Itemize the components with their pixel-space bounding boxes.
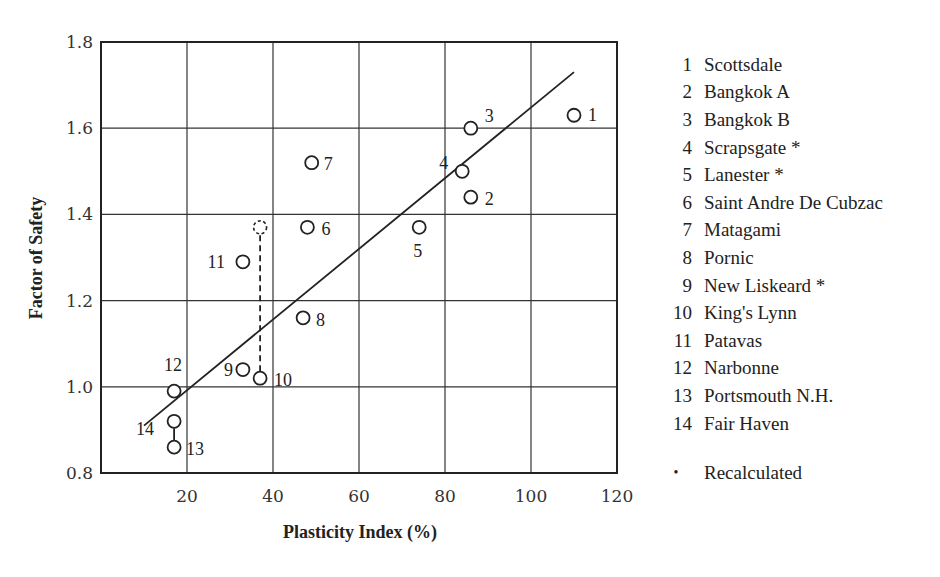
legend-site-name: Patavas xyxy=(704,330,762,352)
point-label: 5 xyxy=(413,241,422,261)
x-axis-label: Plasticity Index (%) xyxy=(283,522,437,543)
point-label: 13 xyxy=(186,439,204,459)
x-axis-ticks: 20406080100120 xyxy=(176,486,633,506)
legend-site-name: Scrapsgate * xyxy=(704,137,801,159)
legend-site-name: King's Lynn xyxy=(704,302,797,324)
legend-number: 6 xyxy=(662,192,704,214)
legend-number: 7 xyxy=(662,219,704,241)
legend-number: 8 xyxy=(662,247,704,269)
x-tick-label: 80 xyxy=(434,486,456,506)
legend-number: 1 xyxy=(662,54,704,76)
legend-number: 13 xyxy=(662,385,704,407)
data-point-13: 13 xyxy=(168,439,205,459)
legend-note: •Recalculated xyxy=(662,459,883,487)
y-tick-label: 1.6 xyxy=(66,118,93,138)
point-marker xyxy=(168,441,181,454)
y-axis-label: Factor of Safety xyxy=(26,197,46,320)
legend-item: 11Patavas xyxy=(662,327,883,355)
legend-number: 3 xyxy=(662,109,704,131)
legend-item: 12Narbonne xyxy=(662,355,883,383)
point-marker xyxy=(464,122,477,135)
point-label: 1 xyxy=(588,105,597,125)
y-tick-label: 0.8 xyxy=(66,463,93,483)
legend-number: 4 xyxy=(662,137,704,159)
legend-site-name: Bangkok A xyxy=(704,81,790,103)
point-marker xyxy=(168,385,181,398)
data-point-2: 2 xyxy=(464,189,494,209)
point-label: 11 xyxy=(208,252,225,272)
legend-item: 9New Liskeard * xyxy=(662,272,883,300)
grid-lines xyxy=(101,42,617,473)
legend-number: 11 xyxy=(662,330,704,352)
data-point-7: 7 xyxy=(305,154,333,174)
data-point-9: 9 xyxy=(224,360,250,380)
legend-item: 14Fair Haven xyxy=(662,410,883,438)
x-tick-label: 60 xyxy=(348,486,370,506)
y-tick-label: 1.0 xyxy=(66,377,93,397)
x-tick-label: 100 xyxy=(515,486,547,506)
data-point-4: 4 xyxy=(439,153,469,178)
legend-site-name: Portsmouth N.H. xyxy=(704,385,833,407)
legend-note-text: Recalculated xyxy=(704,462,802,484)
data-point-1: 1 xyxy=(568,105,598,125)
bullet-icon: • xyxy=(662,465,704,481)
legend-item: 4Scrapsgate * xyxy=(662,134,883,162)
legend-item: 2Bangkok A xyxy=(662,79,883,107)
point-label: 3 xyxy=(485,106,494,126)
recalculated-point-marker xyxy=(254,221,267,234)
legend: 1Scottsdale2Bangkok A3Bangkok B4Scrapsga… xyxy=(662,51,883,487)
x-tick-label: 40 xyxy=(262,486,284,506)
legend-site-name: Pornic xyxy=(704,247,754,269)
point-marker xyxy=(305,156,318,169)
point-label: 2 xyxy=(485,189,494,209)
point-marker xyxy=(301,221,314,234)
legend-site-name: Scottsdale xyxy=(704,54,782,76)
point-marker xyxy=(413,221,426,234)
legend-site-name: Matagami xyxy=(704,219,781,241)
data-point-6: 6 xyxy=(301,219,331,239)
legend-item: 7Matagami xyxy=(662,217,883,245)
legend-item: 6Saint Andre De Cubzac xyxy=(662,189,883,217)
y-axis-ticks: 0.81.01.21.41.61.8 xyxy=(66,32,93,483)
y-tick-label: 1.2 xyxy=(66,291,93,311)
point-marker xyxy=(254,372,267,385)
legend-item: 5Lanester * xyxy=(662,161,883,189)
legend-site-name: New Liskeard * xyxy=(704,275,825,297)
data-point-12: 12 xyxy=(164,355,182,398)
data-point-11: 11 xyxy=(208,252,250,272)
y-tick-label: 1.8 xyxy=(66,32,93,52)
legend-site-name: Saint Andre De Cubzac xyxy=(704,192,883,214)
legend-item: 3Bangkok B xyxy=(662,106,883,134)
legend-number: 14 xyxy=(662,413,704,435)
point-label: 10 xyxy=(274,370,292,390)
point-label: 6 xyxy=(321,219,330,239)
point-label: 14 xyxy=(136,419,154,439)
point-label: 7 xyxy=(324,154,333,174)
data-points: 1234567891011121314 xyxy=(136,105,597,459)
point-label: 4 xyxy=(439,153,448,173)
point-label: 12 xyxy=(164,355,182,375)
legend-site-name: Fair Haven xyxy=(704,413,789,435)
point-marker xyxy=(297,311,310,324)
legend-item: 8Pornic xyxy=(662,244,883,272)
point-marker xyxy=(236,363,249,376)
data-point-8: 8 xyxy=(297,310,326,330)
y-tick-label: 1.4 xyxy=(66,204,93,224)
x-tick-label: 120 xyxy=(601,486,633,506)
point-marker xyxy=(168,415,181,428)
legend-number: 10 xyxy=(662,302,704,324)
data-point-3: 3 xyxy=(464,106,494,135)
legend-site-name: Bangkok B xyxy=(704,109,790,131)
legend-number: 12 xyxy=(662,357,704,379)
point-marker xyxy=(568,109,581,122)
legend-number: 9 xyxy=(662,275,704,297)
point-marker xyxy=(456,165,469,178)
legend-number: 2 xyxy=(662,81,704,103)
legend-site-name: Narbonne xyxy=(704,357,779,379)
legend-number: 5 xyxy=(662,164,704,186)
x-tick-label: 20 xyxy=(176,486,198,506)
point-marker xyxy=(464,191,477,204)
point-marker xyxy=(236,255,249,268)
point-label: 9 xyxy=(224,360,233,380)
point-label: 8 xyxy=(316,310,325,330)
